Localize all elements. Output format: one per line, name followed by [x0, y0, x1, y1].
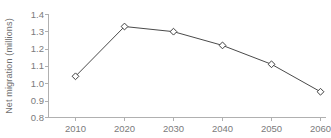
data-point-marker [317, 88, 324, 95]
y-tick-label: 1.2 [31, 43, 44, 54]
y-tick-label: 1.3 [31, 26, 44, 37]
x-tick-label: 2060 [310, 123, 331, 134]
y-tick-label: 1.4 [31, 9, 44, 20]
series-line-net-migration [76, 27, 321, 92]
x-tick-label: 2010 [65, 123, 86, 134]
line-chart: Net migration (millions) 1.4 1.3 1.2 1.1… [0, 0, 331, 138]
y-tick-label: 1.0 [31, 78, 44, 89]
x-tick-label: 2040 [212, 123, 233, 134]
data-point-marker [268, 61, 275, 68]
y-tick-label: 0.8 [31, 112, 44, 123]
y-tick-label: 0.9 [31, 95, 44, 106]
chart-canvas: Net migration (millions) 1.4 1.3 1.2 1.1… [0, 0, 331, 138]
y-tick-label: 1.1 [31, 60, 44, 71]
data-point-marker [219, 42, 226, 49]
x-tick-label: 2050 [261, 123, 282, 134]
data-point-marker [170, 28, 177, 35]
x-tick-label: 2030 [163, 123, 184, 134]
y-axis-title: Net migration (millions) [4, 18, 14, 114]
series-markers [72, 23, 324, 95]
x-tick-label: 2020 [114, 123, 135, 134]
